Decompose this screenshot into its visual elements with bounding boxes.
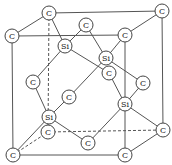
atom-c_tbl: C	[42, 6, 56, 20]
atom-label: C	[106, 69, 112, 78]
atom-c_back: C	[41, 125, 55, 139]
bond-c_tfl-c_bfl	[12, 36, 13, 155]
atom-c_tfl: C	[5, 29, 19, 43]
bond-si2-c_mid	[69, 58, 106, 97]
atom-label: C	[10, 151, 16, 160]
atom-c_front: C	[102, 66, 116, 80]
bond-c_tbl-c_tbr	[49, 11, 162, 13]
atom-label: C	[159, 7, 165, 16]
atom-label: C	[160, 126, 166, 135]
atom-si2: Si	[99, 51, 113, 65]
atom-label: C	[9, 32, 15, 41]
atom-c_bbr: C	[156, 123, 170, 137]
atom-c_bfl: C	[6, 148, 20, 162]
atom-label: C	[45, 128, 51, 137]
bond-c_tbr-c_bbr	[162, 11, 163, 130]
crystal-diagram: CCCCCSiSiCCCCSiSiCCCCC	[0, 0, 172, 165]
atoms: CCCCCSiSiCCCCSiSiCCCCC	[5, 4, 170, 162]
atom-c_right: C	[136, 76, 150, 90]
bond-si3-c_bot	[88, 104, 125, 143]
atom-label: Si	[121, 100, 129, 109]
atom-label: C	[140, 79, 146, 88]
atom-c_left: C	[26, 75, 40, 89]
atom-label: C	[30, 78, 36, 87]
atom-label: C	[46, 9, 52, 18]
hidden-edge-c_back-c_bbr	[48, 130, 163, 132]
atom-si1: Si	[58, 39, 72, 53]
atom-c_top: C	[79, 18, 93, 32]
atom-c_tfr: C	[118, 28, 132, 42]
atom-label: C	[66, 93, 72, 102]
atom-label: C	[122, 151, 128, 160]
atom-label: C	[85, 139, 91, 148]
unit-cell-svg: CCCCCSiSiCCCCSiSiCCCCC	[0, 0, 172, 165]
atom-si4: Si	[42, 110, 56, 124]
atom-c_bot: C	[81, 136, 95, 150]
atom-label: C	[122, 31, 128, 40]
atom-label: Si	[45, 113, 53, 122]
atom-label: Si	[102, 54, 110, 63]
atom-c_mid: C	[62, 90, 76, 104]
atom-label: C	[83, 21, 89, 30]
atom-c_tbr: C	[155, 4, 169, 18]
atom-c_bfr: C	[118, 148, 132, 162]
bond-c_tfl-c_tfr	[12, 35, 125, 36]
atom-label: Si	[61, 42, 69, 51]
atom-si3: Si	[118, 97, 132, 111]
